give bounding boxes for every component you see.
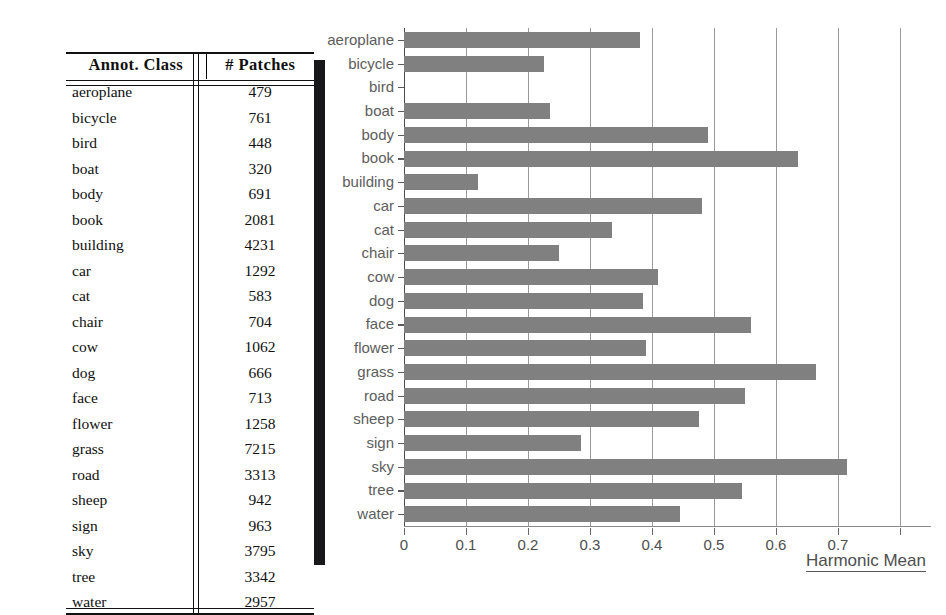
bar (404, 506, 680, 522)
bar-row (404, 194, 931, 219)
table-rule-under-header (66, 80, 314, 86)
cell-num-patches: 1062 (206, 334, 314, 360)
bar-row (404, 407, 931, 432)
bar-row (404, 99, 931, 124)
cell-annot-class: sheep (66, 487, 206, 513)
bar (404, 483, 742, 499)
bar-row (404, 52, 931, 77)
cell-annot-class: tree (66, 564, 206, 590)
bar (404, 198, 702, 214)
category-label-bird: bird (369, 78, 394, 96)
cell-annot-class: grass (66, 436, 206, 462)
category-tick (398, 324, 404, 325)
cell-annot-class: sky (66, 538, 206, 564)
table-row: bicycle761 (66, 105, 314, 131)
category-label-book: book (361, 149, 394, 167)
table-row: sky3795 (66, 538, 314, 564)
x-tick (590, 528, 591, 535)
bar (404, 222, 612, 238)
category-tick (398, 135, 404, 136)
cell-annot-class: flower (66, 411, 206, 437)
bar-row (404, 384, 931, 409)
cell-num-patches: 583 (206, 283, 314, 309)
bar (404, 293, 643, 309)
x-tick (714, 528, 715, 535)
category-tick (398, 396, 404, 397)
bar (404, 151, 798, 167)
cell-num-patches: 1258 (206, 411, 314, 437)
category-label-aeroplane: aeroplane (327, 31, 394, 49)
cell-num-patches: 691 (206, 181, 314, 207)
category-label-flower: flower (354, 339, 394, 357)
bar-row (404, 75, 931, 100)
category-tick (398, 490, 404, 491)
harmonic-mean-bar-chart: aeroplanebicyclebirdboatbodybookbuilding… (316, 14, 936, 594)
cell-num-patches: 761 (206, 105, 314, 131)
cell-num-patches: 3795 (206, 538, 314, 564)
bar (404, 459, 847, 475)
cell-num-patches: 448 (206, 130, 314, 156)
category-label-cow: cow (367, 268, 394, 286)
bar (404, 103, 550, 119)
cell-annot-class: boat (66, 156, 206, 182)
table-rule-bottom (66, 608, 314, 615)
bar (404, 245, 559, 261)
bar-row (404, 265, 931, 290)
cell-num-patches: 666 (206, 360, 314, 386)
cell-annot-class: dog (66, 360, 206, 386)
table-row: face713 (66, 385, 314, 411)
category-label-boat: boat (365, 102, 394, 120)
category-label-building: building (342, 173, 394, 191)
bar-row (404, 455, 931, 480)
category-label-bicycle: bicycle (348, 55, 394, 73)
cell-annot-class: bicycle (66, 105, 206, 131)
table-row: book2081 (66, 207, 314, 233)
category-tick (398, 40, 404, 41)
table-body: aeroplane479bicycle761bird448boat320body… (66, 79, 314, 615)
category-tick (398, 277, 404, 278)
bar-row (404, 502, 931, 527)
table-row: tree3342 (66, 564, 314, 590)
category-label-cat: cat (374, 221, 394, 239)
category-label-sheep: sheep (353, 410, 394, 428)
bar (404, 435, 581, 451)
table-row: bird448 (66, 130, 314, 156)
cell-num-patches: 3342 (206, 564, 314, 590)
patch-count-table: Annot. Class # Patches aeroplane479bicyc… (66, 52, 314, 615)
table-row: road3313 (66, 462, 314, 488)
x-tick (652, 528, 653, 535)
bar (404, 317, 751, 333)
cell-num-patches: 2081 (206, 207, 314, 233)
table-row: flower1258 (66, 411, 314, 437)
category-tick (398, 372, 404, 373)
table-row: boat320 (66, 156, 314, 182)
bar (404, 364, 816, 380)
bar-row (404, 28, 931, 53)
category-axis-labels: aeroplanebicyclebirdboatbodybookbuilding… (316, 28, 394, 526)
cell-annot-class: road (66, 462, 206, 488)
category-label-dog: dog (369, 292, 394, 310)
bar (404, 127, 708, 143)
cell-annot-class: building (66, 232, 206, 258)
bar-row (404, 336, 931, 361)
table-row: sheep942 (66, 487, 314, 513)
x-tick (838, 528, 839, 535)
bar-row (404, 123, 931, 148)
category-label-sky: sky (372, 458, 395, 476)
category-tick (398, 253, 404, 254)
x-tick (404, 528, 405, 535)
table-row: cat583 (66, 283, 314, 309)
cell-annot-class: chair (66, 309, 206, 335)
cell-annot-class: cow (66, 334, 206, 360)
category-tick (398, 158, 404, 159)
table-row: cow1062 (66, 334, 314, 360)
category-label-car: car (373, 197, 394, 215)
plot-area (404, 28, 931, 526)
table-row: dog666 (66, 360, 314, 386)
category-label-face: face (366, 315, 394, 333)
table-row: body691 (66, 181, 314, 207)
x-axis-title-text: Harmonic Mean (806, 551, 926, 572)
table-row: building4231 (66, 232, 314, 258)
category-tick (398, 419, 404, 420)
table-row: grass7215 (66, 436, 314, 462)
